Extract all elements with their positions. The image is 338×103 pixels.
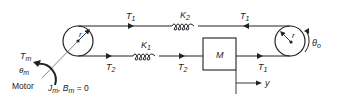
- mechanical-system-diagram: r r M y: [0, 0, 338, 103]
- top-tension-left-label: T1: [126, 11, 136, 22]
- motor-angle-label: θm: [19, 66, 29, 76]
- motor-params-label: Jm, Bm = 0: [47, 83, 89, 94]
- left-pulley: [42, 26, 93, 78]
- spring-k2-label: K2: [180, 10, 190, 21]
- left-pulley-radius-label: r: [79, 30, 82, 39]
- motor-torque-arrow: [33, 60, 56, 85]
- spring-k1: [133, 54, 155, 60]
- spring-k2: [172, 24, 194, 30]
- displacement-label: y: [264, 78, 270, 88]
- displacement-indicator: [236, 70, 262, 94]
- spring-k1-label: K1: [141, 40, 151, 51]
- bottom-tension-right-label: T1: [258, 62, 268, 73]
- motor-label: Motor: [12, 81, 34, 91]
- bottom-tension-left-label: T2: [106, 62, 116, 73]
- bottom-tension-mid-label: T2: [178, 62, 188, 73]
- motor-torque-label: Tm: [20, 51, 32, 62]
- right-pulley-radius-label: r: [292, 31, 295, 40]
- top-tension-right-label: T1: [240, 11, 250, 22]
- output-angle-label: θo: [312, 38, 321, 49]
- mass-label: M: [216, 50, 224, 60]
- bottom-cable: [78, 53, 290, 59]
